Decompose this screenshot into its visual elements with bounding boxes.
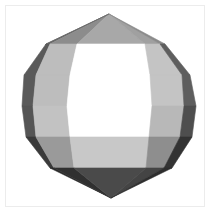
band-facet [33,106,70,137]
band-facet [67,106,152,137]
band-facet [150,75,184,106]
band-facet [33,75,70,106]
band-facet [70,137,149,168]
band-facet [149,106,184,137]
polyhedral-sphere [0,0,212,214]
band-facet [70,44,150,75]
band-facet [67,75,152,106]
band-facet [182,75,196,106]
